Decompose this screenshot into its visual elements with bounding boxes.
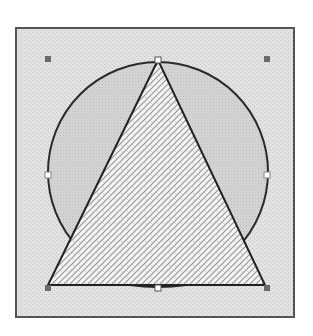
handle-right-icon[interactable] bbox=[264, 172, 270, 178]
handle-bottom-icon[interactable] bbox=[155, 285, 161, 291]
handle-top-icon[interactable] bbox=[155, 57, 161, 63]
handle-top-right-icon[interactable] bbox=[264, 56, 270, 62]
handle-bottom-left-icon[interactable] bbox=[45, 285, 51, 291]
drawing-canvas[interactable] bbox=[0, 0, 313, 336]
handle-top-left-icon[interactable] bbox=[45, 56, 51, 62]
handle-left-icon[interactable] bbox=[45, 172, 51, 178]
handle-bottom-right-icon[interactable] bbox=[264, 285, 270, 291]
